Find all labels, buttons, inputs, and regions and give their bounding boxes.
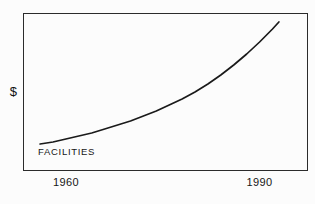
x-axis-ticks: 19601990 xyxy=(0,176,315,190)
facilities-cost-chart: $ FACILITIES 19601990 xyxy=(0,0,315,204)
x-tick-label: 1960 xyxy=(53,176,79,188)
series-label: FACILITIES xyxy=(38,146,95,157)
x-tick-label: 1990 xyxy=(247,176,273,188)
